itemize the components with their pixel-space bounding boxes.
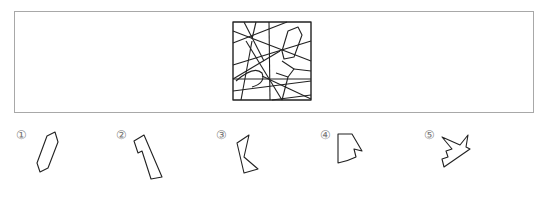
option-1-label: ①	[16, 128, 27, 142]
cut-off-question-text	[14, 0, 244, 2]
option-4-label: ④	[320, 128, 331, 142]
option-2-label: ②	[116, 128, 127, 142]
option-4-shape	[338, 133, 378, 178]
option-3-label: ③	[216, 128, 227, 142]
puzzle-figure	[232, 21, 312, 101]
option-1-shape	[32, 132, 72, 182]
option-5-label: ⑤	[424, 128, 435, 142]
option-3-shape	[236, 133, 286, 188]
option-5-shape	[442, 135, 492, 180]
option-2-shape	[134, 133, 184, 188]
